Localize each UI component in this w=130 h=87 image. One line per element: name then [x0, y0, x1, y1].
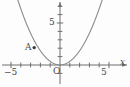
point-a-label: A	[25, 43, 32, 52]
x-axis-group	[2, 62, 127, 68]
coordinate-plot	[0, 0, 130, 87]
y-tick-label-five: 5	[49, 18, 55, 27]
origin-label: O	[53, 67, 60, 76]
x-tick-label-neg-five: −5	[4, 68, 17, 77]
x-axis-label: x	[120, 58, 125, 67]
math-figure-parabola: −5 5 5 x O A	[0, 0, 130, 87]
x-tick-label-five: 5	[101, 68, 107, 77]
point-a-marker	[33, 46, 36, 49]
